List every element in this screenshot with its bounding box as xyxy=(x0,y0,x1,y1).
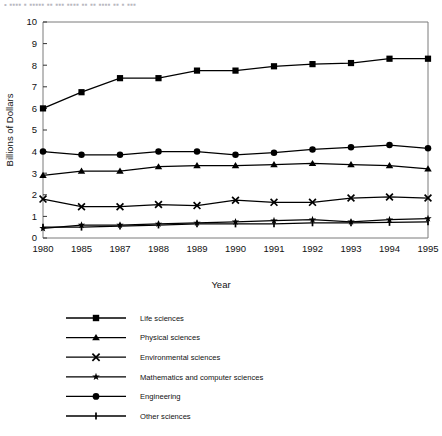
data-point-circle xyxy=(155,148,162,155)
data-point-circle xyxy=(348,144,355,151)
legend-label: Mathematics and computer sciences xyxy=(140,373,263,382)
data-point-square xyxy=(386,56,392,62)
data-point-circle xyxy=(271,149,278,156)
legend-label: Physical sciences xyxy=(140,333,200,342)
axis-frame xyxy=(43,22,428,238)
data-point-circle xyxy=(232,152,239,159)
legend-label: Engineering xyxy=(140,392,181,401)
legend-item-engineering[interactable]: Engineering xyxy=(66,392,181,401)
y-tick-label: 9 xyxy=(32,38,37,49)
legend-item-environmental-sciences[interactable]: Environmental sciences xyxy=(66,353,220,362)
x-tick-label: 1993 xyxy=(340,243,361,254)
y-tick-label: 7 xyxy=(32,81,37,92)
x-tick-label: 1980 xyxy=(32,243,53,254)
y-tick-label: 4 xyxy=(32,146,37,157)
line-chart: 012345678910 198019851987198819891990199… xyxy=(0,0,442,436)
data-point-square xyxy=(93,315,99,321)
x-tick-label: 1991 xyxy=(263,243,284,254)
y-tick-label: 1 xyxy=(32,211,37,222)
series-environmental-sciences xyxy=(40,194,432,211)
data-point-circle xyxy=(117,152,124,159)
y-axis-label: Billions of Dollars xyxy=(4,93,15,166)
series-engineering xyxy=(40,142,432,158)
x-tick-label: 1990 xyxy=(225,243,246,254)
x-axis-ticks: 1980198519871988198919901991199219931994… xyxy=(32,243,438,254)
data-point-circle xyxy=(78,152,85,159)
x-axis-label: Year xyxy=(211,279,230,290)
x-tick-label: 1985 xyxy=(71,243,92,254)
data-point-square xyxy=(309,61,315,67)
x-tick-label: 1995 xyxy=(417,243,438,254)
x-tick-label: 1992 xyxy=(302,243,323,254)
series-line xyxy=(43,197,428,207)
x-tick-label: 1988 xyxy=(148,243,169,254)
data-point-square xyxy=(271,63,277,69)
x-tick-label: 1987 xyxy=(109,243,130,254)
series-physical-sciences xyxy=(39,160,431,178)
legend-item-life-sciences[interactable]: Life sciences xyxy=(66,314,184,323)
x-tick-label: 1989 xyxy=(186,243,207,254)
data-point-circle xyxy=(425,145,432,152)
y-tick-label: 10 xyxy=(26,16,37,27)
y-tick-label: 8 xyxy=(32,60,37,71)
data-point-square xyxy=(155,75,161,81)
data-point-star xyxy=(92,373,100,380)
data-point-circle xyxy=(386,142,393,149)
data-series-group xyxy=(39,56,431,232)
data-point-square xyxy=(348,60,354,66)
data-point-circle xyxy=(309,146,316,153)
y-tick-label: 6 xyxy=(32,103,37,114)
x-tick-label: 1994 xyxy=(379,243,400,254)
data-point-square xyxy=(194,68,200,74)
y-axis-ticks: 012345678910 xyxy=(26,16,47,243)
cropped-header-text: • ▪▪▪▪ ▪ ▪▪▪▪▪ ▪▪ ▪▪▪ ▪▪▪▪ ▪▪ ▪▪ ▪▪▪▪ ▪▪… xyxy=(4,0,424,7)
data-point-circle xyxy=(40,148,47,155)
legend-label: Other sciences xyxy=(140,412,191,421)
data-point-square xyxy=(232,68,238,74)
legend-item-physical-sciences[interactable]: Physical sciences xyxy=(66,333,200,342)
series-life-sciences xyxy=(40,56,431,112)
chart-legend: Life sciencesPhysical sciencesEnvironmen… xyxy=(66,314,263,421)
data-point-square xyxy=(117,75,123,81)
data-point-circle xyxy=(93,393,100,400)
legend-item-other-sciences[interactable]: Other sciences xyxy=(66,412,191,421)
data-point-square xyxy=(40,105,46,111)
data-point-circle xyxy=(194,148,201,155)
y-tick-label: 5 xyxy=(32,124,37,135)
data-point-square xyxy=(425,56,431,62)
legend-label: Life sciences xyxy=(140,314,184,323)
series-line xyxy=(43,59,428,109)
figure-container: • ▪▪▪▪ ▪ ▪▪▪▪▪ ▪▪ ▪▪▪ ▪▪▪▪ ▪▪ ▪▪ ▪▪▪▪ ▪▪… xyxy=(0,0,442,436)
legend-item-mathematics-and-computer-sciences[interactable]: Mathematics and computer sciences xyxy=(66,373,263,382)
y-tick-label: 3 xyxy=(32,168,37,179)
y-tick-label: 0 xyxy=(32,232,37,243)
data-point-square xyxy=(78,89,84,95)
legend-label: Environmental sciences xyxy=(140,353,220,362)
y-tick-label: 2 xyxy=(32,189,37,200)
